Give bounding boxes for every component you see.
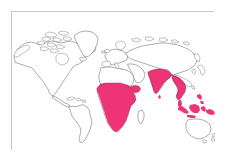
world-map-svg: [12, 12, 215, 151]
world-distribution-map-figure: [0, 0, 227, 167]
map-frame: [11, 11, 214, 150]
